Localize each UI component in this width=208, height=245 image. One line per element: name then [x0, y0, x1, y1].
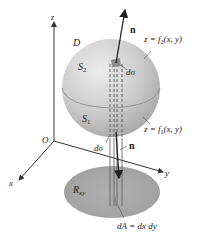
x-axis [19, 141, 54, 180]
dsigma-upper-label: dσ [126, 67, 136, 77]
origin-label: O [42, 135, 49, 145]
x-axis-label: x [8, 178, 13, 188]
y-axis-label: y [164, 168, 169, 178]
leader-dsigma-lower [106, 136, 109, 143]
region-d-label: D [72, 37, 81, 48]
normal-upper-label: n [130, 24, 136, 35]
area-element-label: dA = dx dy [117, 221, 157, 231]
z-axis-label: z [50, 13, 55, 22]
dsigma-lower-label: dσ [94, 143, 104, 153]
sphere-d [62, 39, 160, 137]
surface-integral-diagram: z x y O D S2 S1 z = f2(x, y) z = f1(x, y… [0, 0, 208, 245]
normal-lower-label: n [129, 140, 135, 151]
leader-n-lower [120, 146, 127, 150]
lower-surface-equation: z = f1(x, y) [143, 124, 182, 135]
da-patch [113, 198, 118, 206]
upper-surface-equation: z = f2(x, y) [143, 34, 182, 45]
